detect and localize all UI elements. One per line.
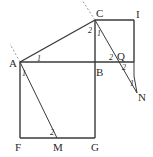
dashed-extension-c: [82, 0, 95, 20]
segment-ac: [20, 20, 95, 62]
label-m: M: [53, 141, 63, 153]
angle-c-right: 1: [97, 29, 101, 38]
angle-q-right: 2: [122, 63, 126, 72]
label-i: I: [136, 8, 140, 20]
label-f: F: [15, 141, 21, 153]
angle-m: 2: [50, 128, 54, 137]
label-g: G: [91, 141, 99, 153]
angle-c-left: 2: [88, 26, 92, 35]
label-n: N: [138, 91, 146, 103]
label-c: C: [96, 7, 103, 19]
label-q: Q: [117, 50, 125, 62]
geometry-diagram: A B C I F G M Q N 1 1 2 1 2 2 1 2: [0, 0, 153, 157]
angle-a-top: 1: [37, 54, 41, 63]
label-a: A: [9, 57, 17, 69]
angle-q-left: 2: [109, 53, 113, 62]
angle-n: 1: [130, 79, 134, 88]
angle-a-bottom: 1: [22, 69, 26, 78]
label-b: B: [96, 66, 103, 78]
